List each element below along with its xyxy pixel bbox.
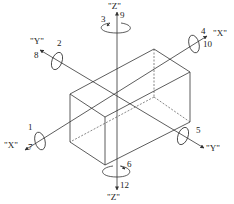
y-upper-rotation-icon [49, 51, 65, 71]
box [70, 49, 190, 165]
axis-diagram: "Z" 3 9 6 12 "Z" "X" 4 10 1 "X" 7 "Y" 2 … [0, 0, 234, 204]
z-translation-12: 12 [120, 180, 129, 190]
z-bottom-rotation-icon [103, 166, 130, 177]
y-lower-label: "Y" [206, 143, 220, 153]
box-hidden-edges [70, 49, 190, 142]
z-rotation-3: 3 [101, 14, 106, 24]
y-rotation-2: 2 [57, 38, 62, 48]
x-rotation-4: 4 [201, 26, 206, 36]
z-top-rotation-icon [101, 23, 130, 33]
y-translation-8: 8 [34, 50, 39, 60]
x-rotation-1: 1 [28, 122, 33, 132]
x-left-label: "X" [4, 140, 18, 150]
y-upper-label: "Y" [30, 36, 44, 46]
x-translation-10: 10 [203, 39, 213, 49]
y-lower-rotation-icon [175, 126, 191, 146]
x-right-label: "X" [213, 28, 227, 38]
y-axis [40, 50, 204, 148]
x-translation-7: 7 [28, 142, 33, 152]
z-rotation-6: 6 [127, 159, 132, 169]
z-translation-9: 9 [120, 10, 125, 20]
y-rotation-5: 5 [196, 125, 201, 135]
z-bottom-label: "Z" [107, 192, 120, 202]
